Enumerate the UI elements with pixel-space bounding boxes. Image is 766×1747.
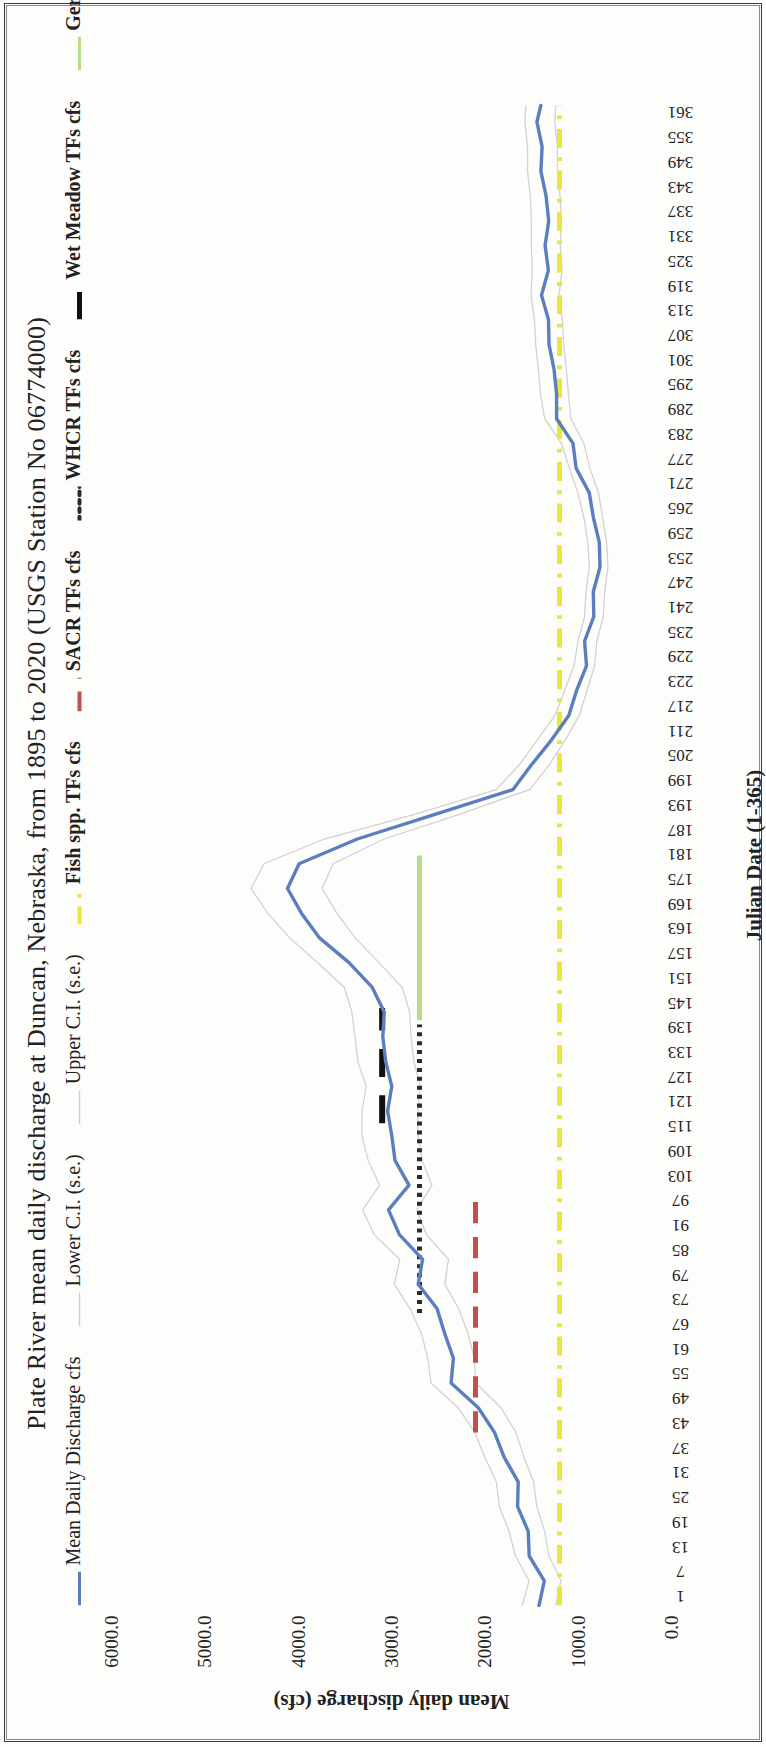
legend-label: Wet Meadow TFs cfs: [62, 101, 85, 280]
x-axis-tick-label: 133: [668, 1042, 694, 1062]
x-axis-tick-label: 295: [668, 374, 694, 394]
scanned-page: Plate River mean daily discharge at Dunc…: [0, 0, 766, 1747]
x-axis-tick-label: 19: [672, 1511, 689, 1531]
x-axis-tick-label: 337: [668, 201, 694, 221]
x-axis-tick-label: 331: [668, 226, 694, 246]
legend-swatch-thick-dash-icon: [67, 286, 79, 320]
plot-area: Mean daily discharge (cfs) 0.01000.02000…: [112, 106, 672, 1606]
x-axis-tick-label: 91: [672, 1215, 689, 1235]
x-axis-tick-label: 355: [668, 127, 694, 147]
legend-swatch-solid-icon: [67, 1292, 79, 1326]
legend-label: Lower C.I. (s.e.): [62, 1154, 85, 1286]
x-axis-tick-label: 79: [672, 1264, 689, 1284]
x-axis-tick-label: 67: [672, 1314, 689, 1334]
x-axis-tick-label: 115: [668, 1116, 693, 1136]
x-axis-tick-label: 61: [672, 1338, 689, 1358]
legend-item: Lower C.I. (s.e.): [62, 1154, 85, 1326]
legend-item: Wet Meadow TFs cfs: [62, 101, 85, 320]
x-axis-tick-label: 187: [668, 819, 694, 839]
legend-swatch-solid-icon: [67, 1572, 79, 1606]
legend-swatch-solid-icon: [67, 1090, 79, 1124]
x-axis-tick-label: 289: [668, 399, 694, 419]
x-axis-tick-label: 211: [668, 720, 693, 740]
x-axis-tick-label: 103: [668, 1165, 694, 1185]
legend-item: SACR TFs cfs: [62, 551, 85, 712]
series-lines: [112, 106, 672, 1606]
confidence-interval-line: [322, 106, 608, 1606]
x-axis-tick-label: 1: [676, 1586, 685, 1606]
y-axis-tick-label: 4000.0: [287, 1616, 309, 1668]
legend-label: Fish spp. TFs cfs: [62, 741, 85, 884]
figure-stage: Plate River mean daily discharge at Dunc…: [16, 24, 751, 1724]
y-axis-tick-label: 6000.0: [101, 1616, 123, 1668]
x-axis-tick-label: 85: [672, 1239, 689, 1259]
x-axis-tick-label: 193: [668, 794, 694, 814]
chart-legend: Mean Daily Discharge cfsLower C.I. (s.e.…: [62, 0, 85, 1606]
x-axis-tick-label: 313: [668, 300, 694, 320]
x-axis-tick-label: 319: [668, 275, 694, 295]
x-axis-tick-label: 139: [668, 1017, 694, 1037]
x-axis-tick-label: 181: [668, 844, 694, 864]
x-axis-tick-label: 175: [668, 868, 694, 888]
x-axis-tick-label: 55: [672, 1363, 689, 1383]
x-axis-tick-label: 157: [668, 943, 694, 963]
x-axis-tick-label: 145: [668, 992, 694, 1012]
x-axis-tick-label: 205: [668, 745, 694, 765]
x-axis-tick-label: 97: [672, 1190, 689, 1210]
x-axis-tick-label: 343: [668, 176, 694, 196]
x-axis-tick-label: 7: [676, 1561, 685, 1581]
y-axis-tick-label: 1000.0: [567, 1616, 589, 1668]
y-axis-tick-label: 2000.0: [474, 1616, 496, 1668]
x-axis-tick-label: 349: [668, 151, 694, 171]
y-axis-title: Mean daily discharge (cfs): [273, 1689, 509, 1714]
x-axis-tick-label: 283: [668, 423, 694, 443]
x-axis-tick-label: 43: [672, 1412, 689, 1432]
x-axis-tick-label: 241: [668, 597, 694, 617]
x-axis-title: Julian Date (1-365): [742, 770, 766, 942]
legend-swatch-dotted-icon: [67, 487, 79, 521]
x-axis-tick-label: 277: [668, 448, 694, 468]
x-axis-tick-label: 151: [668, 967, 694, 987]
mean-discharge-line: [288, 106, 601, 1606]
x-axis-tick-label: 163: [668, 918, 694, 938]
x-axis-tick-label: 301: [668, 349, 694, 369]
x-axis-tick-label: 235: [668, 621, 694, 641]
x-axis-tick-label: 25: [672, 1487, 689, 1507]
legend-swatch-long-dash-icon: [67, 677, 79, 711]
legend-label: Mean Daily Discharge cfs: [62, 1356, 85, 1565]
legend-label: WHCR TFs cfs: [62, 350, 85, 481]
x-axis-tick-label: 121: [668, 1091, 694, 1111]
x-axis-tick-label: 223: [668, 671, 694, 691]
x-axis-tick-label: 259: [668, 522, 694, 542]
figure-title: Plate River mean daily discharge at Dunc…: [22, 24, 52, 1724]
x-axis-tick-label: 271: [668, 473, 694, 493]
y-axis-tick-label: 0.0: [661, 1616, 683, 1640]
legend-item: Mean Daily Discharge cfs: [62, 1356, 85, 1605]
x-axis-tick-label: 31: [672, 1462, 689, 1482]
legend-label: SACR TFs cfs: [62, 551, 85, 672]
x-axis-tick-label: 37: [672, 1437, 689, 1457]
legend-swatch-dash-dot-icon: [67, 890, 79, 924]
x-axis-tick-label: 127: [668, 1066, 694, 1086]
x-axis-tick-label: 325: [668, 250, 694, 270]
x-axis-tick-label: 199: [668, 770, 694, 790]
legend-item: Fish spp. TFs cfs: [62, 741, 85, 924]
x-axis-tick-label: 307: [668, 325, 694, 345]
x-axis-tick-label: 109: [668, 1140, 694, 1160]
x-axis-tick-label: 169: [668, 893, 694, 913]
y-axis-tick-label: 5000.0: [194, 1616, 216, 1668]
legend-item: WHCR TFs cfs: [62, 350, 85, 521]
plot-canvas: [112, 106, 672, 1606]
legend-swatch-solid-icon: [67, 37, 79, 71]
legend-item: Upper C.I. (s.e.): [62, 954, 85, 1124]
x-axis-tick-label: 265: [668, 498, 694, 518]
x-axis-tick-label: 361: [668, 102, 694, 122]
legend-label: Upper C.I. (s.e.): [62, 954, 85, 1084]
x-axis-tick-label: 253: [668, 547, 694, 567]
x-axis-tick-label: 217: [668, 695, 694, 715]
x-axis-tick-label: 13: [672, 1536, 689, 1556]
x-axis-tick-label: 229: [668, 646, 694, 666]
x-axis-tick-label: 49: [672, 1388, 689, 1408]
x-axis-tick-label: 73: [672, 1289, 689, 1309]
legend-label: Germination TFs cfs: [62, 0, 85, 31]
